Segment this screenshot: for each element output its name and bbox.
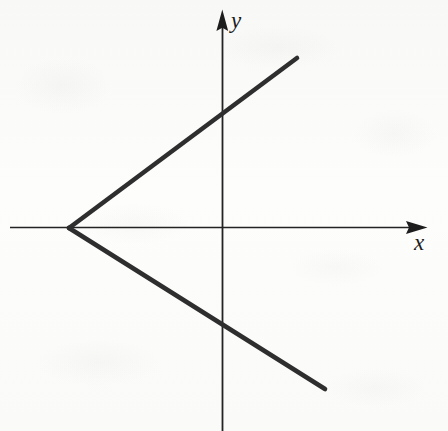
coordinate-plot (0, 0, 448, 431)
x-axis-label: x (414, 231, 424, 254)
y-axis-arrowhead (216, 10, 228, 32)
lower-ray (69, 228, 325, 389)
graph-figure: y x (0, 0, 448, 431)
vertex-point (67, 226, 72, 231)
upper-ray (69, 58, 297, 228)
y-axis-label: y (231, 9, 241, 32)
